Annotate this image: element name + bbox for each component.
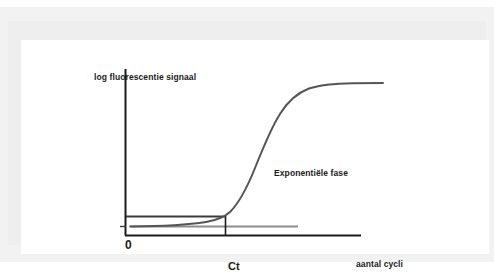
amplification-curve — [131, 83, 383, 227]
plot-svg — [21, 40, 489, 254]
qpcr-amplification-plot — [21, 40, 489, 254]
figure-panel: log fluorescentie signaal aantal cycli E… — [21, 40, 489, 254]
x-axis-title: aantal cycli — [356, 259, 403, 269]
y-axis-zero-label: 0 — [125, 238, 132, 252]
outer-mat: log fluorescentie signaal aantal cycli E… — [0, 7, 494, 262]
ct-axis-label: Ct — [228, 260, 240, 272]
exponential-phase-label: Exponentiële fase — [274, 168, 348, 178]
y-axis-title: log fluorescentie signaal — [94, 72, 196, 82]
mat-frame: log fluorescentie signaal aantal cycli E… — [8, 21, 486, 245]
cropped-caption-strip — [0, 0, 494, 7]
